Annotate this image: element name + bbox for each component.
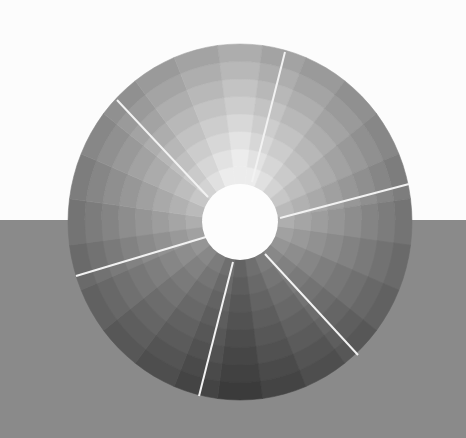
wheel-cell: [233, 167, 247, 185]
wheel-cell: [118, 206, 136, 239]
center-hub: [202, 184, 278, 260]
wheel-cell: [377, 201, 395, 243]
wheel-cell: [311, 210, 328, 234]
wheel-cell: [152, 210, 169, 234]
wheel-cell: [226, 312, 253, 330]
wheel-cell: [344, 206, 362, 239]
wheel-cell: [218, 381, 263, 400]
wheel-cell: [220, 62, 261, 81]
wheel-cell: [231, 149, 250, 167]
wheel-cell: [394, 199, 412, 245]
wheel-cell: [169, 213, 186, 232]
wheel-cell: [135, 208, 153, 236]
wheel-cell: [222, 346, 258, 365]
wheel-cell: [233, 260, 247, 278]
wheel-cell: [85, 201, 103, 243]
wheel-cell: [222, 79, 258, 98]
wheel-cell: [361, 203, 379, 240]
value-wheel: [0, 0, 466, 438]
wheel-cell: [294, 213, 311, 232]
wheel-cell: [224, 329, 256, 347]
wheel-cell: [220, 364, 261, 383]
wheel-cell: [218, 44, 263, 63]
wheel-cell: [68, 199, 86, 245]
wheel-cell: [229, 132, 252, 150]
wheel-cell: [224, 97, 256, 115]
wheel-cell: [229, 294, 252, 312]
wheel-cell: [328, 208, 346, 236]
wheel-cell: [102, 203, 120, 240]
wheel-cell: [226, 114, 253, 132]
wheel-cell: [231, 277, 250, 295]
